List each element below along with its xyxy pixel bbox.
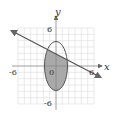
- tick-y-pos: 6: [47, 25, 52, 34]
- origin-label: 0: [49, 68, 54, 77]
- x-axis-label: x: [104, 61, 110, 72]
- tick-x-neg: -6: [9, 68, 17, 77]
- tick-x-pos: 6: [89, 68, 94, 77]
- tick-y-neg: -6: [44, 99, 52, 108]
- y-axis-label: y: [54, 6, 61, 17]
- graph: y x 6 -6 -6 6 0: [0, 0, 117, 118]
